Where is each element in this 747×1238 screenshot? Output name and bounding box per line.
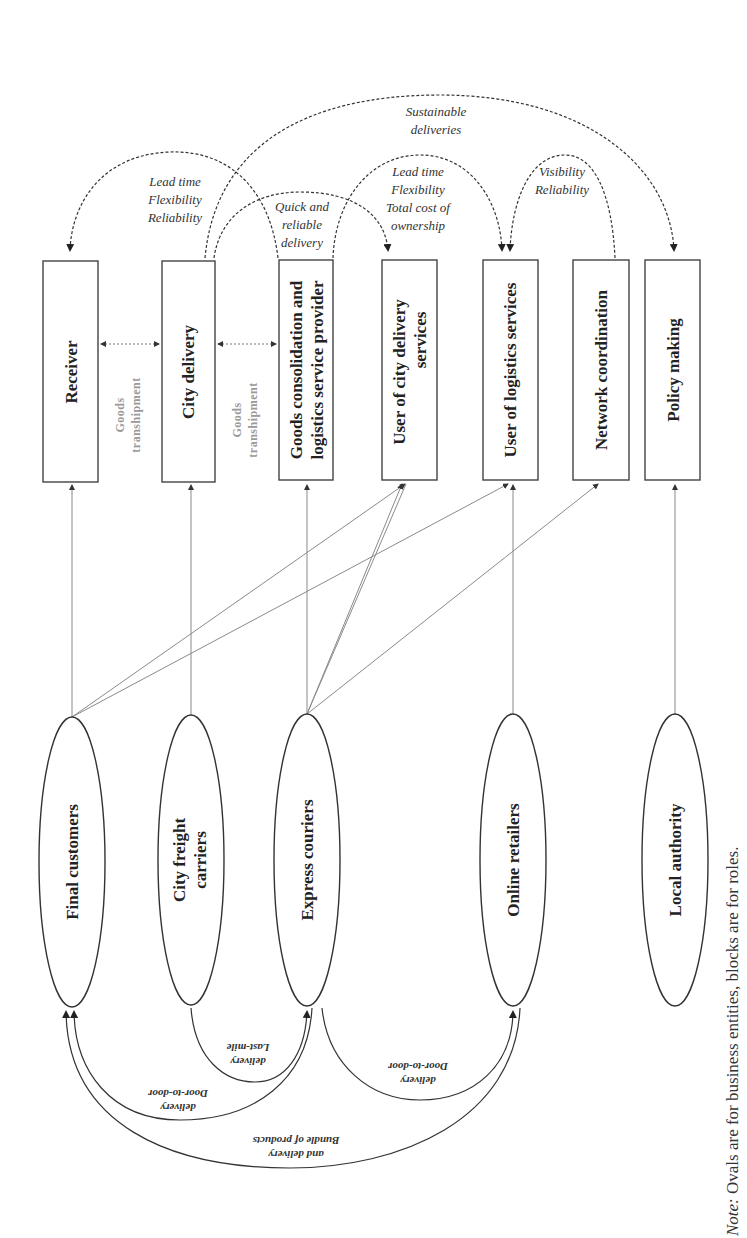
flow-label: Door-to-doordelivery (387, 1061, 449, 1087)
entity-city-freight-carriers[interactable]: City freight carriers (158, 715, 224, 1005)
role-label-line2: services (411, 311, 430, 368)
link-final-customers-user-logistics (72, 484, 508, 717)
flow-label: Bundle of productsand delivery (253, 1135, 341, 1161)
rel-label: Quick andreliabledelivery (275, 199, 329, 250)
entity-label: Local authority (666, 803, 685, 916)
transhipment-label-1b: transhipment (129, 377, 143, 452)
entity-label-line1: City freight (170, 818, 189, 903)
role-label: Network coordination (592, 289, 611, 450)
entity-final-customers[interactable]: Final customers (39, 717, 105, 1007)
diagram-note: Note: Ovals are for business entities, b… (723, 847, 742, 1238)
entity-label: Express couriers (298, 799, 317, 920)
role-label: Receiver (62, 340, 81, 404)
entity-label: Final customers (63, 804, 82, 920)
role-relation-arcs: Lead timeFlexibilityReliability Sustaina… (70, 95, 674, 258)
role-user-city-delivery[interactable]: User of city delivery services (382, 260, 437, 480)
entity-online-retailers[interactable]: Online retailers (480, 714, 546, 1006)
role-label-line1: User of city delivery (390, 299, 409, 445)
transhipment-label-2b: transhipment (246, 382, 260, 457)
flow-label: Last-miledelivery (227, 1042, 271, 1068)
role-city-delivery[interactable]: City delivery (162, 261, 215, 482)
rel-label: Sustainabledeliveries (406, 104, 467, 137)
role-label: User of logistics services (501, 282, 520, 457)
role-label-line2: logistics service provider (308, 280, 327, 460)
entity-role-links (72, 484, 675, 717)
entity-label-line2: carriers (191, 831, 210, 889)
link-final-customers-user-city-delivery (72, 484, 405, 717)
role-label: Policy making (664, 318, 683, 422)
rel-label: VisibilityReliability (534, 164, 589, 197)
role-label-line1: Goods consolidation and (287, 280, 306, 459)
role-receiver[interactable]: Receiver (43, 261, 98, 482)
transhipment-label-2a: Goods (230, 402, 244, 437)
link-express-user-city-delivery-a (307, 484, 402, 714)
rel-label: Lead timeFlexibilityReliability (147, 174, 202, 225)
flow-label: Door-to-doordelivery (147, 1088, 209, 1114)
role-user-logistics[interactable]: User of logistics services (483, 260, 538, 480)
business-model-diagram: Receiver City delivery Goods consolidati… (0, 0, 747, 1238)
role-policy-making[interactable]: Policy making (645, 260, 700, 480)
role-label: City delivery (179, 325, 198, 419)
entity-flow-arcs: Last-miledelivery Door-to-doordelivery D… (66, 1008, 520, 1168)
rel-label: Lead timeFlexibilityTotal cost ofownersh… (386, 164, 452, 233)
role-goods-consolidation[interactable]: Goods consolidation and logistics servic… (279, 260, 333, 480)
role-network-coordination[interactable]: Network coordination (573, 260, 629, 480)
entity-label: Online retailers (504, 803, 523, 917)
entity-ovals: Final customers City freight carriers Ex… (39, 714, 708, 1007)
transhipment-label-1a: Goods (113, 397, 127, 432)
entity-express-couriers[interactable]: Express couriers (274, 714, 340, 1006)
link-express-network-coordination (307, 484, 598, 714)
entity-local-authority[interactable]: Local authority (642, 714, 708, 1006)
